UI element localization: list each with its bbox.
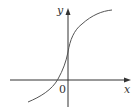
x-axis-label: x	[124, 83, 131, 96]
y-axis-label: y	[56, 4, 64, 17]
origin-label: 0	[59, 83, 66, 96]
y-axis-arrow-icon	[66, 8, 71, 15]
function-graph: y x 0	[0, 0, 139, 112]
x-axis	[10, 78, 131, 83]
function-curve	[28, 10, 112, 102]
x-axis-arrow-icon	[124, 78, 131, 83]
